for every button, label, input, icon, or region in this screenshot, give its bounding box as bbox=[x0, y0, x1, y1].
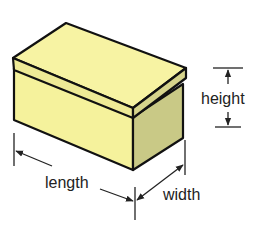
box-dimensions-diagram: height length width bbox=[0, 0, 275, 233]
box bbox=[13, 23, 186, 170]
width-label: width bbox=[162, 186, 200, 203]
height-label: height bbox=[201, 90, 245, 107]
length-label: length bbox=[45, 174, 89, 191]
